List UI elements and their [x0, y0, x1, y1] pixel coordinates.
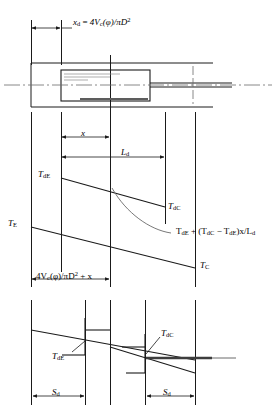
piston-body — [61, 70, 150, 101]
t-de-step-label: TdE — [52, 352, 64, 362]
grid-line-a — [31, 112, 32, 287]
tdc-leader-line — [146, 337, 160, 354]
interpolation-equation: TdE + (TdC − TdE)x/Ld — [176, 227, 255, 237]
grid-line-d — [165, 112, 166, 224]
sd-left-label: Sd — [52, 388, 60, 398]
witness-line-right — [61, 20, 62, 65]
piston-rod — [150, 83, 232, 87]
grid-line-a2 — [31, 300, 32, 405]
grid-line-b — [61, 112, 62, 272]
t-dc-step-label: TdC — [161, 329, 174, 339]
linework-overlay — [0, 0, 277, 418]
step-slope-line-lower — [110, 347, 195, 373]
step-function-right — [122, 334, 145, 373]
working-gas-temperature-line — [31, 227, 195, 268]
sd-right-label: Sd — [163, 388, 171, 398]
deadspace-plus-x-label: 4Vc(φ)/πD2 + x — [36, 271, 92, 282]
grid-line-e — [195, 112, 196, 287]
grid-line-b2 — [85, 300, 86, 405]
t-dc-label: TdC — [168, 202, 181, 212]
tde-leader-line — [72, 341, 85, 352]
piston-shading — [64, 74, 120, 80]
ld-dimension-label: Ld — [121, 148, 129, 158]
grid-line-c — [110, 55, 111, 287]
t-c-label: TC — [200, 261, 209, 271]
x-dimension-label: x — [81, 129, 85, 138]
t-e-label: TE — [8, 219, 17, 229]
witness-line-left — [31, 20, 32, 65]
t-de-label: TdE — [38, 170, 50, 180]
figure-canvas: xd = 4Vc(φ)/πD2 — [0, 0, 277, 418]
grid-line-d2 — [145, 300, 146, 405]
grid-line-c2 — [110, 300, 111, 405]
xd-dimension-label: xd = 4Vc(φ)/πD2 — [73, 17, 130, 28]
dead-space-temperature-line — [61, 178, 165, 207]
grid-line-e2 — [195, 300, 196, 405]
step-function-left — [62, 318, 110, 355]
equation-leader-curve — [112, 188, 171, 233]
cylinder-outline — [31, 63, 213, 107]
